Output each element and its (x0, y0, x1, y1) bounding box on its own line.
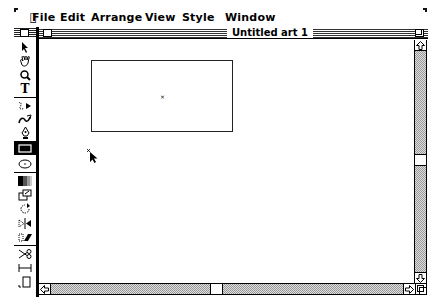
window-resize-box[interactable] (415, 283, 427, 295)
arrow-icon (21, 42, 29, 53)
rectangle-shape[interactable]: × (91, 60, 233, 132)
menu-edit[interactable]: Edit (60, 11, 85, 24)
tool-rectangle[interactable] (14, 141, 36, 155)
reflect-icon (18, 218, 32, 229)
horizontal-scrollbar[interactable] (39, 283, 415, 295)
shear-icon (18, 232, 32, 242)
rectangle-crosshair-cursor-icon (87, 149, 99, 163)
tool-selection-arrow[interactable] (14, 40, 36, 54)
freehand-icon (18, 100, 32, 111)
hand-icon (19, 56, 31, 67)
document-window: Untitled art 1 × (39, 28, 428, 295)
tool-text[interactable]: T (14, 82, 36, 96)
artboard-canvas[interactable]: × (39, 40, 414, 283)
tool-freehand[interactable] (14, 98, 36, 112)
toolbox-divider (14, 172, 36, 173)
tool-autotrace[interactable] (14, 112, 36, 126)
rectangle-icon (18, 144, 32, 153)
toolbox: T (14, 28, 36, 296)
window-zoom-box[interactable] (415, 29, 424, 37)
arrow-right-icon (405, 285, 414, 294)
autotrace-icon (18, 114, 32, 125)
scale-icon (18, 189, 32, 201)
tool-scale[interactable] (14, 188, 36, 202)
toolbox-divider (14, 245, 36, 246)
window-title-bar[interactable]: Untitled art 1 (39, 28, 428, 39)
arrow-down-icon (416, 274, 425, 283)
oval-icon (18, 159, 32, 169)
horizontal-scroll-thumb[interactable] (210, 284, 223, 294)
tool-reflect[interactable] (14, 216, 36, 230)
menu-view[interactable]: View (145, 11, 176, 24)
vertical-scroll-thumb[interactable] (415, 154, 426, 166)
tool-scissors[interactable] (14, 247, 36, 261)
tool-pen[interactable] (14, 126, 36, 140)
scissors-icon (18, 249, 32, 259)
menu-arrange[interactable]: Arrange (91, 11, 142, 24)
text-icon: T (21, 83, 30, 95)
tool-rotate[interactable] (14, 202, 36, 216)
tool-hand[interactable] (14, 54, 36, 68)
tool-zoom[interactable] (14, 68, 36, 82)
tool-page[interactable] (14, 275, 36, 289)
menu-window[interactable]: Window (225, 11, 276, 24)
rotate-icon (19, 203, 31, 215)
menu-file[interactable]: File (32, 11, 55, 24)
pen-icon (21, 127, 30, 139)
measure-icon (18, 263, 32, 273)
toolbox-close-box[interactable] (20, 29, 29, 37)
center-point-icon: × (160, 95, 164, 99)
magnifier-icon (20, 70, 31, 81)
toolbox-title-bar[interactable] (14, 28, 36, 38)
window-title: Untitled art 1 (227, 27, 313, 38)
vertical-scrollbar[interactable] (414, 40, 427, 283)
menu-bar:  File Edit Arrange View Style Window (14, 8, 428, 26)
tool-oval[interactable] (14, 157, 36, 171)
tool-measure[interactable] (14, 261, 36, 275)
scroll-left-button[interactable] (39, 284, 51, 294)
scroll-up-button[interactable] (415, 40, 426, 51)
menu-style[interactable]: Style (182, 11, 215, 24)
arrow-up-icon (416, 41, 425, 50)
page-icon (18, 276, 32, 288)
arrow-left-icon (40, 285, 49, 294)
scroll-down-button[interactable] (415, 272, 426, 283)
tool-shear[interactable] (14, 230, 36, 244)
window-close-box[interactable] (43, 29, 52, 37)
tool-blend[interactable] (14, 174, 36, 188)
blend-icon (18, 176, 32, 186)
scroll-right-button[interactable] (403, 284, 415, 294)
